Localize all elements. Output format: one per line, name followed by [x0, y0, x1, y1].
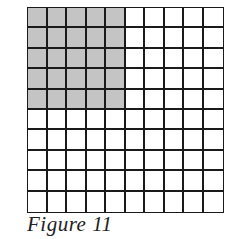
grid-cell-shaded: [48, 49, 68, 69]
grid-cell: [204, 90, 224, 110]
grid-cell: [87, 171, 107, 191]
grid-cell: [145, 151, 165, 171]
grid-cell: [145, 49, 165, 69]
grid-cell: [204, 49, 224, 69]
grid-cell-shaded: [67, 8, 87, 28]
grid-cell: [204, 110, 224, 130]
grid-cell: [87, 151, 107, 171]
grid-cell-shaded: [28, 90, 48, 110]
grid-cell-shaded: [106, 90, 126, 110]
grid-cell: [204, 171, 224, 191]
grid-cell: [106, 110, 126, 130]
grid-cell-shaded: [87, 28, 107, 48]
grid-cell: [204, 28, 224, 48]
grid-cell: [184, 110, 204, 130]
grid-cell: [28, 130, 48, 150]
grid-cell: [67, 171, 87, 191]
grid-cell: [165, 69, 185, 89]
grid-cell-shaded: [67, 28, 87, 48]
grid-cell: [204, 192, 224, 212]
grid-cell-shaded: [48, 69, 68, 89]
grid-cell-shaded: [106, 69, 126, 89]
grid-cell-shaded: [106, 8, 126, 28]
grid-cell: [145, 28, 165, 48]
grid-cell: [145, 192, 165, 212]
grid-cell: [126, 171, 146, 191]
grid-cell: [184, 130, 204, 150]
grid-cell: [126, 151, 146, 171]
grid-cell: [204, 69, 224, 89]
grid-cell-shaded: [48, 90, 68, 110]
grid-cell: [67, 130, 87, 150]
grid-cell: [165, 151, 185, 171]
grid-cell: [145, 8, 165, 28]
grid-cell: [204, 151, 224, 171]
grid-cell: [184, 8, 204, 28]
grid-cell: [184, 151, 204, 171]
grid-cell-shaded: [87, 69, 107, 89]
grid-cell: [165, 192, 185, 212]
grid-cell: [126, 8, 146, 28]
grid-cell: [165, 28, 185, 48]
grid-cell: [204, 130, 224, 150]
grid-cell-shaded: [48, 8, 68, 28]
grid-cell: [184, 171, 204, 191]
grid-cell: [48, 151, 68, 171]
grid-cell: [28, 192, 48, 212]
grid-cell: [126, 130, 146, 150]
grid-cell-shaded: [28, 49, 48, 69]
grid-cell: [126, 192, 146, 212]
grid-cell: [48, 192, 68, 212]
grid-cell: [145, 130, 165, 150]
grid-cell-shaded: [106, 28, 126, 48]
grid-cell: [165, 110, 185, 130]
grid-cell: [28, 110, 48, 130]
grid-cell-shaded: [106, 49, 126, 69]
grid-cell: [165, 49, 185, 69]
grid-cell: [145, 69, 165, 89]
grid-cell: [126, 49, 146, 69]
grid-cell: [184, 69, 204, 89]
grid-cell: [184, 192, 204, 212]
grid-cell: [67, 192, 87, 212]
grid-cell-shaded: [67, 49, 87, 69]
figure-caption: Figure 11: [27, 212, 113, 237]
grid-cell: [165, 8, 185, 28]
grid-cell: [126, 28, 146, 48]
grid-cell: [184, 28, 204, 48]
grid-cell: [106, 192, 126, 212]
grid-cell: [145, 171, 165, 191]
grid-cell: [145, 110, 165, 130]
grid-cell-shaded: [67, 69, 87, 89]
grid-cell: [28, 171, 48, 191]
grid-cell: [87, 130, 107, 150]
grid-cell-shaded: [48, 28, 68, 48]
hundred-grid: [27, 7, 224, 213]
grid-cell: [87, 192, 107, 212]
grid-cell-shaded: [28, 28, 48, 48]
grid-cell-shaded: [28, 8, 48, 28]
grid-cell: [106, 130, 126, 150]
grid-cell: [204, 8, 224, 28]
grid-cell: [106, 171, 126, 191]
grid-cell: [87, 110, 107, 130]
grid-cell: [126, 110, 146, 130]
grid-cell: [126, 90, 146, 110]
grid-cell: [145, 90, 165, 110]
grid-cell-shaded: [87, 8, 107, 28]
grid-cell: [126, 69, 146, 89]
grid-cell: [106, 151, 126, 171]
grid-cell: [48, 171, 68, 191]
grid-cell: [184, 90, 204, 110]
grid-cell-shaded: [87, 49, 107, 69]
grid-cell: [165, 130, 185, 150]
grid-cell: [67, 110, 87, 130]
grid-cell-shaded: [67, 90, 87, 110]
grid-cell: [48, 110, 68, 130]
grid-cell: [165, 90, 185, 110]
grid-cell: [165, 171, 185, 191]
grid-cell: [28, 151, 48, 171]
grid-cell-shaded: [87, 90, 107, 110]
grid-cell: [67, 151, 87, 171]
grid-cell: [184, 49, 204, 69]
